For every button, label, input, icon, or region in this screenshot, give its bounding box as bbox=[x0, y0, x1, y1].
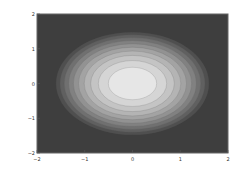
x-tick-label: −2 bbox=[33, 156, 40, 162]
x-tick-label: −1 bbox=[81, 156, 88, 162]
contour-level bbox=[108, 67, 156, 99]
plot-area bbox=[37, 14, 228, 153]
y-tick-label: 0 bbox=[32, 81, 35, 87]
y-tick-label: 1 bbox=[32, 46, 35, 52]
y-tick-label: −1 bbox=[28, 115, 35, 121]
y-tick-label: 2 bbox=[32, 11, 35, 17]
x-tick-label: 1 bbox=[179, 156, 182, 162]
contour-plot: −2−1012 210−1−2 bbox=[0, 0, 246, 171]
x-tick-label: 0 bbox=[131, 156, 134, 162]
y-tick-label: −2 bbox=[28, 150, 35, 156]
x-tick-label: 2 bbox=[226, 156, 229, 162]
